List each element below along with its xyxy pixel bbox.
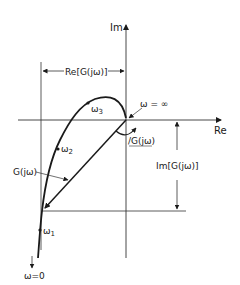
svg-text:ω3: ω3	[91, 104, 103, 116]
svg-text:ω1: ω1	[43, 226, 55, 238]
im-dimension: Im[G(jω)]	[156, 122, 198, 209]
g-vector	[45, 120, 126, 208]
im-component-label: Im[G(jω)]	[156, 161, 198, 171]
vector-label: G(jω)	[13, 167, 37, 177]
imaginary-axis: Im	[110, 22, 126, 258]
real-axis: Re	[18, 120, 227, 136]
real-axis-label: Re	[214, 125, 227, 136]
re-component-label: Re[G(jω)]	[65, 67, 107, 77]
omega-infinity-label: ω = ∞	[140, 99, 168, 109]
imaginary-axis-label: Im	[110, 22, 123, 33]
vector-label-group: G(jω)	[13, 167, 68, 180]
phase-angle: /G(jω)	[116, 128, 155, 146]
svg-text:ω2: ω2	[61, 144, 73, 156]
omega-zero-label: ω=0	[24, 271, 45, 281]
phase-angle-label: /G(jω)	[128, 136, 155, 146]
re-dimension: Re[G(jω)]	[43, 67, 124, 77]
omega-infinity-group: ω = ∞	[129, 99, 168, 118]
polar-plot-diagram: Im Re Re[G(jω)] Im[G(jω)] G(jω) /G(jω) ω	[0, 0, 240, 285]
omega-2-marker: ω2	[56, 144, 73, 156]
omega-3-marker: ω3	[86, 101, 103, 116]
